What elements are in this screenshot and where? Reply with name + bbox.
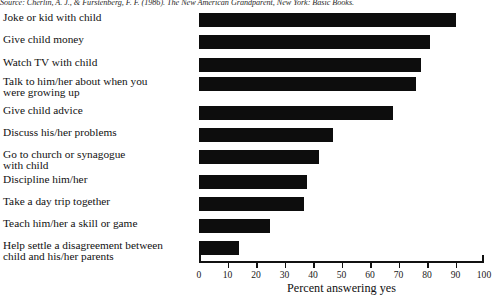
chart-row: Talk to him/her about when you were grow… bbox=[0, 76, 484, 93]
bar-category-label: Help settle a disagreement between child… bbox=[3, 240, 191, 263]
x-axis-tick bbox=[482, 255, 484, 263]
bar-track bbox=[199, 77, 484, 91]
x-axis-tick bbox=[256, 261, 258, 268]
x-axis-tick-label: 0 bbox=[188, 269, 210, 280]
x-axis-tick bbox=[399, 261, 401, 268]
bar-track bbox=[199, 106, 484, 120]
bar-track bbox=[199, 197, 484, 211]
bar-category-label: Go to church or synagogue with child bbox=[3, 149, 191, 172]
bar-track bbox=[199, 150, 484, 164]
bar bbox=[199, 197, 304, 211]
bar-category-label: Discipline him/her bbox=[3, 174, 191, 186]
bar bbox=[199, 175, 307, 189]
bar-chart: Joke or kid with childGive child moneyWa… bbox=[0, 8, 484, 291]
bar-track bbox=[199, 58, 484, 72]
bar bbox=[199, 128, 333, 142]
x-axis-tick bbox=[370, 261, 372, 268]
chart-row: Teach him/her a skill or game bbox=[0, 218, 484, 235]
bar bbox=[199, 219, 270, 233]
bar-track bbox=[199, 241, 484, 255]
x-axis-tick bbox=[313, 261, 315, 268]
x-axis-title: Percent answering yes bbox=[199, 281, 484, 296]
x-axis-tick-label: 50 bbox=[331, 269, 353, 280]
x-axis-tick-label: 70 bbox=[388, 269, 410, 280]
bar bbox=[199, 58, 421, 72]
x-axis-tick-label: 80 bbox=[416, 269, 438, 280]
bar-track bbox=[199, 13, 484, 27]
chart-row: Take a day trip together bbox=[0, 196, 484, 213]
bar bbox=[199, 106, 393, 120]
x-axis-tick-label: 20 bbox=[245, 269, 267, 280]
bar-category-label: Watch TV with child bbox=[3, 57, 191, 69]
bar-category-label: Joke or kid with child bbox=[3, 12, 191, 24]
source-citation: Source: Cherlin, A. J., & Furstenberg, F… bbox=[0, 0, 484, 8]
bar-category-label: Teach him/her a skill or game bbox=[3, 218, 191, 230]
chart-row: Give child advice bbox=[0, 105, 484, 122]
bar-category-label: Take a day trip together bbox=[3, 196, 191, 208]
x-axis-tick bbox=[427, 261, 429, 268]
x-axis-tick-label: 30 bbox=[274, 269, 296, 280]
x-axis-tick bbox=[285, 261, 287, 268]
bar bbox=[199, 241, 239, 255]
chart-row: Go to church or synagogue with child bbox=[0, 149, 484, 166]
bar-track bbox=[199, 175, 484, 189]
chart-row: Joke or kid with child bbox=[0, 12, 484, 29]
bar-category-label: Give child money bbox=[3, 34, 191, 46]
chart-row: Watch TV with child bbox=[0, 57, 484, 74]
bar-track bbox=[199, 35, 484, 49]
bar bbox=[199, 77, 416, 91]
bar bbox=[199, 150, 319, 164]
chart-row: Discipline him/her bbox=[0, 174, 484, 191]
bar-track bbox=[199, 128, 484, 142]
x-axis-tick-label: 100 bbox=[473, 269, 495, 280]
x-axis-tick-label: 60 bbox=[359, 269, 381, 280]
bar-category-label: Give child advice bbox=[3, 105, 191, 117]
chart-row: Help settle a disagreement between child… bbox=[0, 240, 484, 257]
x-axis-tick-label: 40 bbox=[302, 269, 324, 280]
x-axis-tick bbox=[342, 261, 344, 268]
x-axis-tick bbox=[199, 255, 201, 263]
x-axis-tick bbox=[228, 261, 230, 268]
bar-category-label: Talk to him/her about when you were grow… bbox=[3, 76, 191, 99]
x-axis-tick bbox=[456, 261, 458, 268]
x-axis-tick-label: 10 bbox=[217, 269, 239, 280]
chart-row: Discuss his/her problems bbox=[0, 127, 484, 144]
bar-track bbox=[199, 219, 484, 233]
bar-category-label: Discuss his/her problems bbox=[3, 127, 191, 139]
bar bbox=[199, 13, 456, 27]
bar bbox=[199, 35, 430, 49]
x-axis-tick-label: 90 bbox=[445, 269, 467, 280]
chart-row: Give child money bbox=[0, 34, 484, 51]
